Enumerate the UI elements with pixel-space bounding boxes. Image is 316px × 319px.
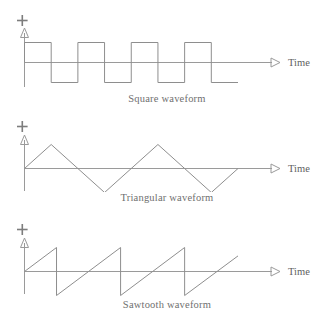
figure-square-waveform: Time Square waveform [0, 0, 316, 108]
caption-sawtooth-waveform: Sawtooth waveform [0, 299, 316, 310]
time-axis-label-triangle: Time [288, 163, 310, 174]
right-triangle-outline-icon [271, 267, 280, 276]
time-axis-label-sawtooth: Time [288, 266, 310, 277]
axis-group-sawtooth: Time [17, 224, 310, 299]
triangular-waveform-plot: Time [0, 108, 316, 192]
plus-sign-horizontal-sawtooth [17, 229, 28, 231]
square-waveform-plot: Time [0, 0, 316, 92]
caption-triangular-waveform: Triangular waveform [0, 192, 316, 203]
time-axis-label-square: Time [288, 57, 310, 68]
right-triangle-outline-icon [271, 164, 280, 173]
plus-sign-horizontal-triangle [17, 126, 28, 128]
axis-group-triangle: Time [17, 121, 310, 192]
right-triangle-outline-icon [271, 58, 280, 67]
plus-sign-horizontal-square [17, 20, 28, 22]
figure-triangular-waveform: Time Triangular waveform [0, 108, 316, 211]
caption-square-waveform: Square waveform [0, 93, 316, 104]
figure-sawtooth-waveform: Time Sawtooth waveform [0, 211, 316, 319]
sawtooth-waveform-plot: Time [0, 211, 316, 299]
axis-group-square: Time [17, 15, 310, 92]
